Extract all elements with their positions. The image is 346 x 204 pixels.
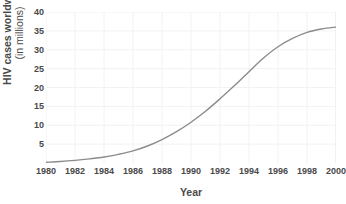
x-tick-label: 1980 [36,166,56,177]
chart-title [0,0,346,2]
y-axis-title-line1: HIV cases worldwide [1,0,13,85]
y-tick-label: 15 [22,102,44,111]
x-axis-title: Year [46,186,336,198]
x-tick-label: 1984 [94,166,114,177]
x-tick-label: 1996 [268,166,288,177]
hiv-cases-line-chart: HIV cases worldwide (in millions) 510152… [0,0,346,204]
y-tick-label: 40 [22,8,44,17]
y-tick-label: 20 [22,83,44,92]
y-tick-label: 10 [22,121,44,130]
x-tick-label: 1988 [152,166,172,177]
x-tick-label: 1998 [297,166,317,177]
plot-svg [46,12,336,163]
y-tick-label: 30 [22,45,44,54]
y-tick-label: 5 [22,140,44,149]
y-tick-label: 25 [22,64,44,73]
x-tick-label: 2000 [326,166,346,177]
x-tick-label: 1986 [123,166,143,177]
y-tick-label: 35 [22,26,44,35]
x-tick-label: 1992 [210,166,230,177]
x-tick-label: 1994 [239,166,259,177]
plot-area [46,12,336,163]
x-tick-label: 1990 [181,166,201,177]
x-tick-label: 1982 [65,166,85,177]
x-axis-tick-labels: 1980198219841986198819901992199419961998… [46,166,336,178]
